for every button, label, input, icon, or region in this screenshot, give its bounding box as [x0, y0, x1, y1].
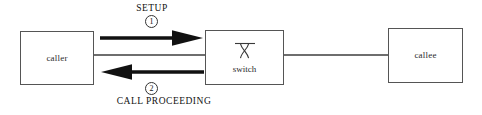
node-callee-label: callee: [414, 51, 436, 60]
sequence-badge-2: 2: [145, 82, 158, 95]
link-caller-switch: [94, 54, 205, 56]
message-label-call-proceeding: CALL PROCEEDING: [97, 96, 231, 106]
call-setup-diagram: caller switch callee SETUP 1 2 CALL PROC…: [0, 0, 482, 115]
node-caller-label: caller: [46, 54, 67, 63]
message-label-setup: SETUP: [117, 3, 187, 13]
node-switch-label: switch: [233, 65, 257, 74]
link-switch-callee: [284, 54, 388, 56]
sequence-badge-1: 1: [145, 15, 158, 28]
switch-crossing-icon: [233, 41, 257, 64]
arrow-call-proceeding-left-icon: [100, 63, 204, 81]
node-caller: caller: [20, 31, 94, 85]
arrow-setup-right-icon: [100, 29, 204, 47]
node-callee: callee: [388, 28, 463, 83]
node-switch: switch: [205, 30, 284, 85]
